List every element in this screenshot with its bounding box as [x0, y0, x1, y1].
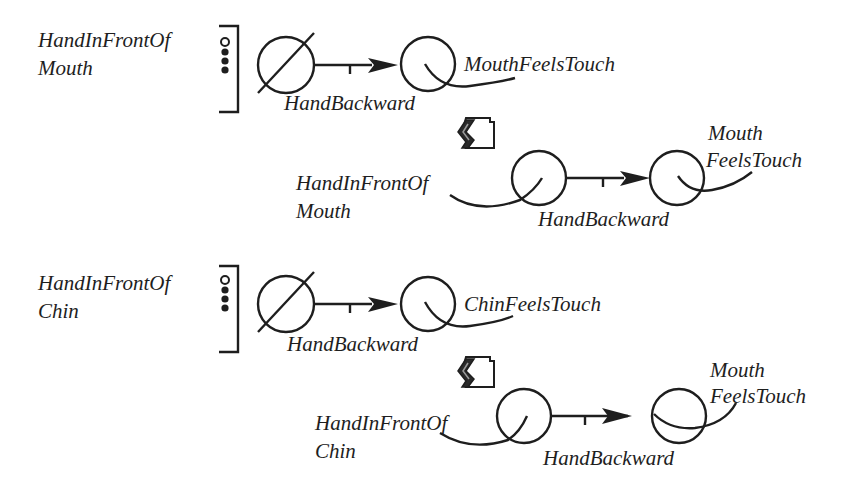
row-1: HandInFrontOf Mouth HandBackward MouthFe…	[37, 26, 802, 231]
row-1-expansion: HandInFrontOf Mouth HandBackward Mouth F…	[295, 121, 802, 231]
condition-line2: Chin	[38, 299, 79, 323]
condition-line2: Mouth	[37, 56, 93, 80]
q-loop-state-icon	[440, 389, 551, 445]
condition-marker-icon	[221, 38, 229, 74]
arrow-with-tick-icon	[314, 58, 398, 74]
expansion-start-line2: Chin	[315, 439, 356, 463]
expansion-result-line2: FeelsTouch	[705, 148, 802, 172]
expansion-action-label: HandBackward	[537, 207, 670, 231]
row-2-expansion: HandInFrontOf Chin HandBackward Mouth Fe…	[314, 358, 806, 470]
condition-line1: HandInFrontOf	[37, 271, 173, 295]
q-loop-state-icon	[450, 151, 566, 206]
expansion-start-line1: HandInFrontOf	[314, 411, 450, 435]
result-label: ChinFeelsTouch	[464, 292, 601, 316]
row-2-condition-label: HandInFrontOf Chin	[37, 271, 173, 323]
condition-marker-icon	[221, 276, 229, 312]
arrow-with-tick-icon	[551, 408, 632, 425]
arrow-with-tick-icon	[314, 297, 398, 313]
expansion-start-line1: HandInFrontOf	[295, 171, 431, 195]
action-label: HandBackward	[283, 91, 416, 115]
row-2: HandInFrontOf Chin HandBackward ChinFeel…	[37, 266, 806, 470]
house-arrow-icon	[458, 118, 494, 148]
diagram-canvas: HandInFrontOf Mouth HandBackward MouthFe…	[0, 0, 868, 492]
arrow-with-tick-icon	[566, 171, 650, 187]
condition-line1: HandInFrontOf	[37, 28, 173, 52]
expansion-result-line2: FeelsTouch	[709, 384, 806, 408]
row-1-condition-label: HandInFrontOf Mouth	[37, 28, 173, 80]
expansion-start-line2: Mouth	[295, 199, 351, 223]
result-label: MouthFeelsTouch	[463, 52, 615, 76]
expansion-action-label: HandBackward	[542, 446, 675, 470]
expansion-result-line1: Mouth	[709, 358, 765, 382]
action-label: HandBackward	[286, 332, 419, 356]
empty-set-icon	[258, 272, 314, 332]
empty-set-icon	[258, 33, 314, 93]
expansion-result-line1: Mouth	[707, 121, 763, 145]
house-arrow-icon	[458, 357, 494, 387]
